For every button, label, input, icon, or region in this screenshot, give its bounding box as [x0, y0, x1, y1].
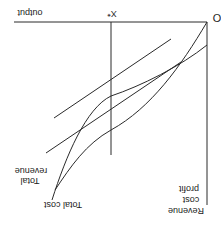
- labels: O output X* Revenue cost profit Total re…: [15, 8, 221, 216]
- x-star-label: X*: [107, 9, 117, 19]
- revenue-tangent-line: [46, 62, 181, 153]
- total-cost-curve: [52, 45, 207, 200]
- total-revenue-label-line-2: revenue: [15, 166, 48, 176]
- y-axis-label-line-2: cost: [182, 195, 199, 205]
- diagram-canvas: O output X* Revenue cost profit Total re…: [0, 0, 221, 226]
- y-axis-label-line-3: profit: [179, 184, 200, 194]
- y-axis-label-line-1: Revenue: [168, 206, 204, 216]
- profit-maximization-diagram: O output X* Revenue cost profit Total re…: [0, 0, 221, 226]
- total-revenue-curve: [55, 22, 207, 190]
- total-revenue-label-line-1: Total: [20, 176, 39, 186]
- origin-label: O: [212, 12, 221, 24]
- x-axis-label: output: [17, 8, 43, 18]
- total-cost-label: Total cost: [43, 200, 82, 210]
